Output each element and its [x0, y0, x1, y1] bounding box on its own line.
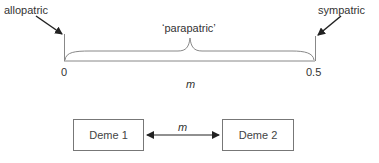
deme-1-label: Deme 1 — [89, 129, 128, 141]
parapatric-label: ‘parapatric’ — [162, 22, 216, 34]
sympatric-label: sympatric — [318, 4, 365, 16]
axis-start-label: 0 — [61, 66, 67, 78]
axis-end-label: 0.5 — [306, 66, 321, 78]
axis-variable-label: m — [186, 78, 195, 90]
deme-2-box: Deme 2 — [222, 119, 294, 151]
allopatric-label: allopatric — [4, 4, 48, 16]
allopatric-arrow — [36, 16, 62, 34]
parapatric-brace — [65, 38, 314, 60]
migration-rate-label: m — [178, 121, 187, 133]
deme-2-label: Deme 2 — [239, 129, 278, 141]
sympatric-arrow — [318, 16, 341, 35]
deme-1-box: Deme 1 — [73, 119, 144, 151]
